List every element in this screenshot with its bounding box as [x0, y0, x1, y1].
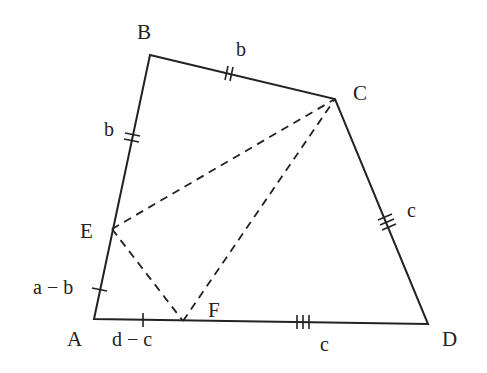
vertex-label-c: C	[353, 81, 367, 105]
quadrilateral-abcd	[94, 55, 428, 324]
segment-fc	[183, 99, 335, 321]
side-label-cd: c	[407, 199, 416, 221]
segment-ef	[112, 229, 183, 321]
vertex-label-e: E	[80, 219, 93, 243]
side-label-ae: a − b	[33, 276, 73, 298]
vertex-label-b: B	[137, 20, 151, 44]
side-label-fd: c	[320, 333, 329, 355]
vertex-label-d: D	[442, 327, 457, 351]
side-label-bc: b	[236, 38, 246, 60]
side-label-be: b	[104, 118, 114, 140]
side-label-af: d − c	[112, 328, 152, 350]
segment-ec	[112, 99, 335, 229]
quadrilateral-diagram: A B C D E F b b c c a − b d − c	[0, 0, 487, 373]
tick-mark-cd	[378, 214, 396, 230]
vertex-label-a: A	[67, 327, 83, 351]
vertex-label-f: F	[208, 298, 220, 322]
